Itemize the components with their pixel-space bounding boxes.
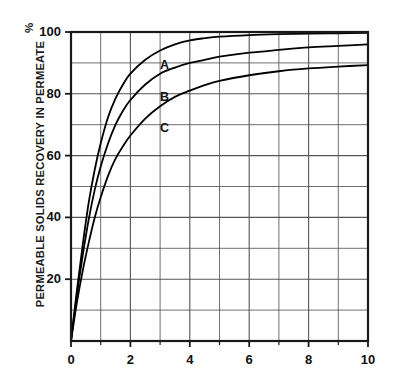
y-tick-label: 80 <box>27 86 61 101</box>
x-tick-label: 2 <box>115 352 145 367</box>
y-tick-label: 20 <box>27 271 61 286</box>
y-tick-label: 40 <box>27 209 61 224</box>
x-tick-label: 4 <box>175 352 205 367</box>
grid-minor <box>71 32 368 341</box>
plot-canvas <box>0 0 396 384</box>
curve-label-a: A <box>160 58 169 72</box>
y-axis-title-wrap: PERMEABLE SOLIDS RECOVERY IN PERMEATE <box>0 0 40 384</box>
y-tick-label: 60 <box>27 148 61 163</box>
x-tick-label: 10 <box>353 352 383 367</box>
x-tick-label: 8 <box>294 352 324 367</box>
x-tick-label: 6 <box>234 352 264 367</box>
y-tick-label: 100 <box>27 24 61 39</box>
curve-label-b: B <box>160 90 169 104</box>
axis-ticks <box>65 32 368 347</box>
x-tick-label: 0 <box>56 352 86 367</box>
curve-label-c: C <box>160 121 169 135</box>
chart-figure: PERMEABLE SOLIDS RECOVERY IN PERMEATE % … <box>0 0 396 384</box>
